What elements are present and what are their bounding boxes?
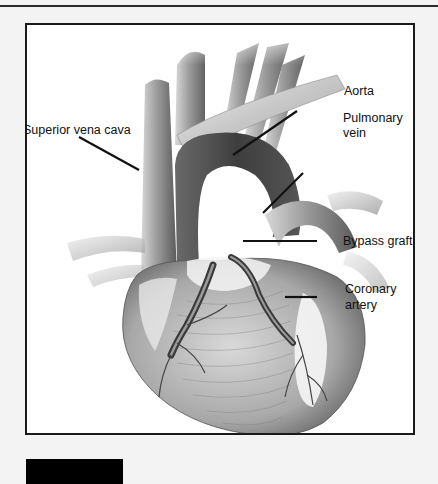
label-pulmonary-vein-line1: Pulmonary xyxy=(343,111,403,126)
label-aorta: Aorta xyxy=(344,84,374,99)
top-rule xyxy=(0,5,438,7)
label-superior-vena-cava: Superior vena cava xyxy=(25,123,131,138)
label-coronary-artery-line1: Coronary xyxy=(345,282,396,297)
label-bypass-graft: Bypass graft xyxy=(343,234,412,249)
label-pulmonary-vein-line2: vein xyxy=(343,126,366,141)
caption-bar xyxy=(26,459,123,484)
label-coronary-artery-line2: artery xyxy=(345,298,377,313)
superior-vena-cava xyxy=(141,79,177,281)
figure-frame: Superior vena cava Aorta Pulmonary vein … xyxy=(25,23,415,435)
